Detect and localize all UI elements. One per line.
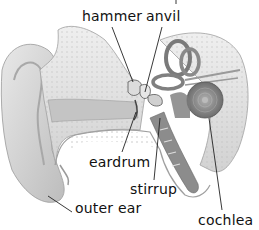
hammer-label: hammer (82, 8, 142, 24)
ear-anatomy-diagram: hammer anvil eardrum stirrup outer ear c… (0, 0, 259, 230)
anvil-label: anvil (146, 8, 181, 24)
outer-ear-label: outer ear (75, 200, 142, 216)
cochlea-label: cochlea (198, 212, 253, 228)
eardrum-label: eardrum (89, 154, 150, 170)
stirrup-label: stirrup (130, 181, 177, 197)
ear-canal-shape (48, 99, 138, 122)
